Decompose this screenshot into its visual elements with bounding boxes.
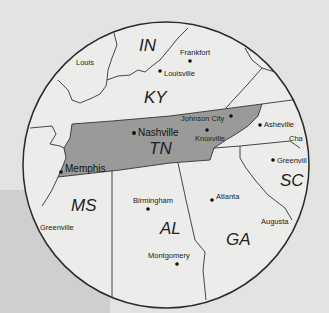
city-label-louisville: Louisville — [164, 69, 195, 78]
city-label-asheville: Asheville — [264, 120, 294, 129]
city-dot-frankfort — [188, 59, 192, 63]
city-label-charlotte: Cha — [289, 134, 304, 143]
city-dot-nashville — [132, 131, 136, 135]
city-dot-atlanta — [210, 198, 214, 202]
city-label-greenville-sc: Greenvill — [277, 156, 307, 165]
state-label-ms: MS — [71, 196, 97, 215]
city-label-montgomery: Montgomery — [148, 251, 190, 260]
city-label-atlanta: Atlanta — [216, 192, 240, 201]
city-dot-louisville — [158, 69, 162, 73]
city-label-memphis: Memphis — [65, 163, 106, 174]
state-label-in: IN — [139, 36, 157, 55]
city-label-knoxville: Knoxville — [195, 134, 225, 143]
city-label-augusta: Augusta — [261, 217, 289, 226]
city-dot-greenville-sc — [271, 158, 275, 162]
city-label-greenville-ms: Greenville — [40, 223, 74, 232]
city-dot-memphis — [59, 170, 63, 174]
city-dot-knoxville — [205, 128, 209, 132]
city-dot-johnson-city — [229, 114, 233, 118]
locator-map: IN KY TN MS AL GA SC Louis Frankfort Lou… — [0, 0, 329, 313]
map-container: IN KY TN MS AL GA SC Louis Frankfort Lou… — [0, 0, 329, 313]
state-label-tn: TN — [149, 139, 172, 158]
city-label-frankfort: Frankfort — [180, 48, 211, 57]
state-label-al: AL — [159, 219, 181, 238]
city-dot-montgomery — [175, 262, 179, 266]
city-dot-birmingham — [146, 207, 150, 211]
state-label-ga: GA — [226, 230, 251, 249]
state-label-ky: KY — [144, 88, 168, 107]
state-label-sc: SC — [280, 171, 304, 190]
city-label-nashville: Nashville — [138, 127, 179, 138]
city-label-stlouis: Louis — [76, 58, 94, 67]
city-label-birmingham: Birmingham — [133, 196, 173, 205]
city-dot-asheville — [258, 123, 262, 127]
city-label-johnson-city: Johnson City — [181, 114, 225, 123]
